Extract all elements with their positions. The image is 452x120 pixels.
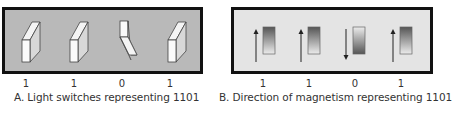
bit-label: 1 (160, 78, 180, 89)
bit-label: 0 (112, 78, 132, 89)
panel-a-caption: A. Light switches representing 1101 (14, 91, 199, 103)
light-switch-up-icon (63, 10, 93, 71)
light-switch-panel (2, 7, 203, 74)
magnet-up-icon (252, 10, 282, 71)
magnetism-panel (231, 7, 433, 74)
bit-label: 1 (253, 78, 273, 89)
light-switch-down-icon (111, 10, 141, 71)
magnet-up-icon (297, 10, 327, 71)
light-switch-up-icon (15, 10, 45, 71)
magnet-down-icon (342, 10, 372, 71)
panel-b-caption: B. Direction of magnetism representing 1… (219, 91, 452, 103)
bit-label: 1 (299, 78, 319, 89)
bit-label: 1 (391, 78, 411, 89)
bit-label: 1 (64, 78, 84, 89)
magnet-up-icon (389, 10, 419, 71)
bit-label: 1 (16, 78, 36, 89)
bit-label: 0 (345, 78, 365, 89)
light-switch-up-icon (161, 10, 191, 71)
